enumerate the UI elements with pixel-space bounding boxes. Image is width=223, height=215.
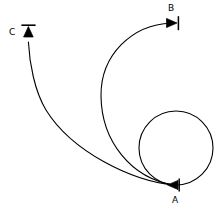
- vertex-label-c: C: [9, 28, 15, 37]
- arrowhead-b: [167, 16, 179, 30]
- trajectory-a-to-c-curve: [28, 42, 174, 185]
- vertex-label-b: B: [168, 4, 174, 13]
- arrowhead-c: [21, 25, 35, 37]
- orbital-transfer-diagram: A B C: [0, 0, 223, 215]
- orbit-circle: [139, 111, 213, 185]
- vertex-label-a: A: [172, 196, 178, 205]
- arrowhead-a: [168, 179, 180, 192]
- diagram-canvas: [0, 0, 223, 215]
- trajectory-a-to-b-curve: [101, 23, 174, 185]
